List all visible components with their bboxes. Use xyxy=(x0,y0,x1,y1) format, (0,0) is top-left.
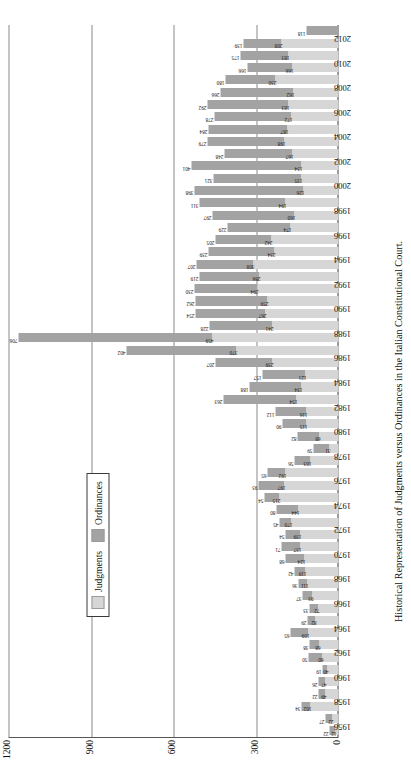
bar-column: 207239 xyxy=(8,356,338,368)
bar-stack: 112116 xyxy=(275,407,338,416)
axis-tick-label: 600 xyxy=(166,740,176,754)
bar-value-label-judgments: 144 xyxy=(292,510,300,516)
bar-value-label-judgments: 60 xyxy=(317,657,322,663)
bar-stack: 36111 xyxy=(298,579,338,588)
bar-stack: 80144 xyxy=(276,505,338,514)
bar-column: 180230 xyxy=(8,74,338,86)
bar-value-label-ordinances: 279 xyxy=(198,141,206,147)
bar-column: 398126 xyxy=(8,184,338,196)
bar-stack: 321135 xyxy=(213,174,338,183)
bar-segment-ordinances xyxy=(194,284,257,293)
bar-segment-judgments xyxy=(212,333,338,342)
bar-value-label-ordinances: 230 xyxy=(185,289,193,295)
bar-stack: 207308 xyxy=(196,260,338,269)
bar-column: 1940 xyxy=(8,663,338,675)
bar-value-label-ordinances: 321 xyxy=(204,178,212,184)
legend-swatch xyxy=(91,529,104,542)
bar-column: 112116 xyxy=(8,405,338,417)
bar-segment-ordinances xyxy=(126,346,237,355)
bar-column: 93197 xyxy=(8,479,338,491)
bar-value-label-ordinances: 38 xyxy=(303,645,308,651)
bar-value-label-judgments: 124 xyxy=(297,559,305,565)
bar-stack: 205242 xyxy=(215,235,338,244)
year-tick xyxy=(340,26,404,38)
bar-stack: 65109 xyxy=(290,628,338,637)
bar-stack: 3793 xyxy=(302,591,338,600)
bar-segment-judgments xyxy=(292,63,338,72)
bar-value-label-judgments: 82 xyxy=(311,620,316,626)
bar-segment-judgments xyxy=(288,51,338,60)
bar-stack: 90115 xyxy=(282,419,338,428)
bar-segment-ordinances xyxy=(225,75,275,84)
bar-segment-ordinances xyxy=(199,198,285,207)
bar-value-label-judgments: 308 xyxy=(247,264,255,270)
plot-area: 2212272234102224926471940506038686510929… xyxy=(8,25,338,738)
bar-column: 219286 xyxy=(8,270,338,282)
bar-value-label-judgments: 174 xyxy=(283,227,291,233)
bar-segment-judgments xyxy=(294,211,338,220)
bar-segment-judgments xyxy=(259,272,338,281)
bar-column: 5060 xyxy=(8,651,338,663)
bar-segment-ordinances xyxy=(207,137,284,146)
bar-value-label-ordinances: 33 xyxy=(303,608,308,614)
bar-stack: 230294 xyxy=(194,284,338,293)
bar-value-label-ordinances: 65 xyxy=(261,473,266,479)
bar-segment-judgments xyxy=(265,309,338,318)
bar-stack: 207239 xyxy=(215,358,338,367)
bar-column: 278172 xyxy=(8,111,338,123)
bar-segment-ordinances xyxy=(223,395,295,404)
bar-segment-ordinances xyxy=(196,260,253,269)
bar-value-label-judgments: 198 xyxy=(277,141,285,147)
bar-value-label-judgments: 40 xyxy=(323,669,328,675)
bar-column: 65109 xyxy=(8,626,338,638)
bar-value-label-ordinances: 93 xyxy=(252,485,257,491)
bar-value-label-judgments: 160 xyxy=(287,215,295,221)
bar-column: 80144 xyxy=(8,504,338,516)
bar-value-label-judgments: 259 xyxy=(260,301,268,307)
bar-column: 706459 xyxy=(8,332,338,344)
bar-column: 248167 xyxy=(8,148,338,160)
bar-value-label-judgments: 230 xyxy=(268,80,276,86)
bar-value-label-judgments: 137 xyxy=(294,547,302,553)
bar-column: 175183 xyxy=(8,49,338,61)
chart-figure: 12009006003000 2212272234102224926471940… xyxy=(0,0,411,772)
bar-stack: 398126 xyxy=(194,186,338,195)
bar-segment-judgments xyxy=(303,186,338,195)
bar-column: 292183 xyxy=(8,98,338,110)
bar-value-label-ordinances: 90 xyxy=(275,424,280,430)
bar-value-label-judgments: 239 xyxy=(265,362,273,368)
bar-value-label-judgments: 116 xyxy=(300,412,308,418)
chart-legend: JudgmentsOrdinances xyxy=(86,473,109,617)
bar-segment-ordinances xyxy=(227,223,290,232)
bar-segment-judgments xyxy=(301,174,338,183)
bar-segment-judgments xyxy=(298,505,338,514)
bar-column: 228241 xyxy=(8,319,338,331)
bar-value-label-judgments: 187 xyxy=(280,129,288,135)
bar-value-label-ordinances: 175 xyxy=(231,55,239,61)
bar-value-label-judgments: 119 xyxy=(299,571,307,577)
bar-segment-ordinances xyxy=(208,125,286,134)
bar-value-label-ordinances: 262 xyxy=(186,301,194,307)
bar-stack: 239234 xyxy=(208,247,338,256)
legend-label: Judgments xyxy=(92,551,103,592)
bar-value-label-ordinances: 188 xyxy=(241,387,249,393)
bar-value-label-ordinances: 402 xyxy=(117,350,125,356)
bar-value-label-judgments: 121 xyxy=(298,375,306,381)
bar-segment-judgments xyxy=(272,321,338,330)
bar-segment-judgments xyxy=(284,137,338,146)
bar-stack: 401134 xyxy=(191,161,338,170)
bar-value-label-judgments: 72 xyxy=(314,608,319,614)
bar-value-label-judgments: 234 xyxy=(267,252,275,258)
bar-column: 90115 xyxy=(8,418,338,430)
bar-value-label-ordinances: 65 xyxy=(284,633,289,639)
bar-segment-ordinances xyxy=(195,296,267,305)
bar-value-label-judgments: 68 xyxy=(315,436,320,442)
bar-column: 45170 xyxy=(8,516,338,528)
bar-column: 3793 xyxy=(8,590,338,602)
bar-value-label-ordinances: 229 xyxy=(218,227,226,233)
bar-column: 54215 xyxy=(8,491,338,503)
figure-caption: Historical Representation of Judgments v… xyxy=(392,241,403,622)
bar-segment-judgments xyxy=(281,39,338,48)
bar-segment-ordinances xyxy=(212,211,294,220)
bar-segment-judgments xyxy=(300,542,338,551)
